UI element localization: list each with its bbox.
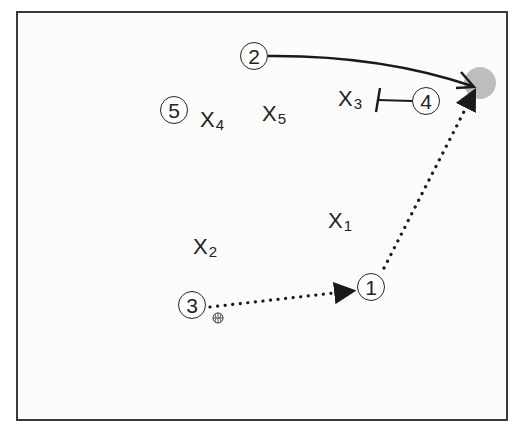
basketball-icon [213, 313, 223, 323]
player-number: 3 [186, 295, 198, 316]
target-spot [464, 67, 496, 99]
offense-player-3[interactable]: 3 [178, 291, 206, 319]
defense-player-x2[interactable]: X2 [193, 236, 217, 259]
pass-1-to-target [384, 92, 474, 268]
defense-player-x5[interactable]: X5 [262, 103, 286, 126]
defense-player-x1[interactable]: X1 [328, 210, 352, 233]
player-number: 2 [248, 46, 260, 67]
offense-player-4[interactable]: 4 [412, 87, 440, 115]
defense-player-x3[interactable]: X3 [338, 88, 362, 111]
offense-player-1[interactable]: 1 [357, 273, 385, 301]
player-number: 1 [365, 277, 377, 298]
player-number: 4 [420, 91, 432, 112]
screen-line [378, 100, 412, 101]
offense-player-5[interactable]: 5 [160, 96, 188, 124]
offense-player-2[interactable]: 2 [240, 42, 268, 70]
defense-player-x4[interactable]: X4 [200, 109, 224, 132]
player-number: 5 [168, 100, 180, 121]
pass-3-to-1 [210, 291, 352, 307]
cut-arrow-2 [268, 56, 472, 86]
